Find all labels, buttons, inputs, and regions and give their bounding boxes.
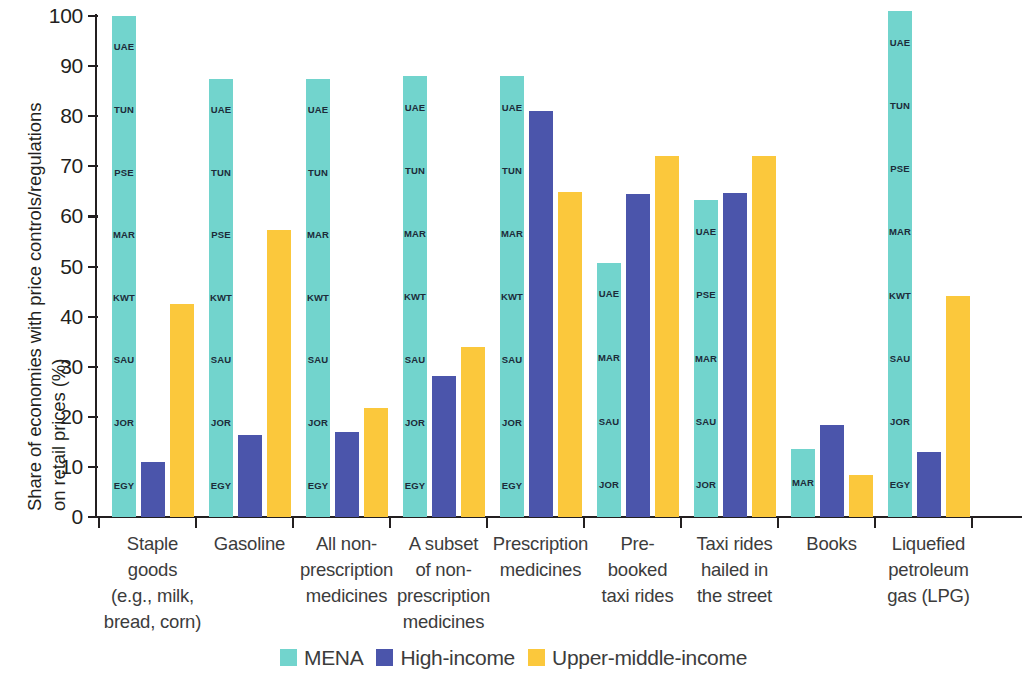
bar-high-income-1 <box>238 435 262 517</box>
bar-economy-label: UAE <box>211 104 232 115</box>
bar-economy-label: UAE <box>114 41 135 52</box>
y-axis-tick-label: 90 <box>60 53 83 79</box>
y-axis-tick-label: 0 <box>72 504 83 530</box>
x-axis-category-line: booked <box>592 557 684 583</box>
bar-economy-label: UAE <box>308 104 329 115</box>
bar-upper-middle-income-4 <box>558 192 582 517</box>
bar-mena-1: UAETUNPSEKWTSAUJOREGY <box>209 79 233 517</box>
legend-label: High-income <box>400 646 515 669</box>
bar-economy-label: SAU <box>599 416 620 427</box>
legend-item-high-income[interactable]: High-income <box>376 646 515 669</box>
x-axis-category-line: All non- <box>294 531 399 557</box>
y-axis-tick-label: 50 <box>60 254 83 280</box>
x-axis-tick <box>583 517 585 528</box>
bar-economy-label: SAU <box>405 354 426 365</box>
bar-upper-middle-income-1 <box>267 230 291 517</box>
y-axis-title: Share of economies with price controls/r… <box>0 0 56 520</box>
bar-high-income-2 <box>335 432 359 517</box>
bar-economy-label: JOR <box>696 479 716 490</box>
bar-economy-label: MAR <box>889 226 911 237</box>
bar-mena-0: UAETUNPSEMARKWTSAUJOREGY <box>112 16 136 517</box>
x-axis-category-line: gas (LPG) <box>875 583 983 609</box>
chart-legend: MENAHigh-incomeUpper-middle-income <box>0 646 1027 669</box>
x-axis-tick <box>389 517 391 528</box>
bar-economy-label: UAE <box>599 288 620 299</box>
y-axis-tick-label: 20 <box>60 404 83 430</box>
bar-high-income-8 <box>917 452 941 517</box>
x-axis-category-line: Staple <box>89 531 217 557</box>
bar-economy-label: MAR <box>792 477 814 488</box>
legend-swatch-icon <box>528 649 545 666</box>
chart-figure: Share of economies with price controls/r… <box>0 0 1027 673</box>
bar-upper-middle-income-3 <box>461 347 485 517</box>
x-axis-category-line: the street <box>682 583 787 609</box>
bar-economy-label: JOR <box>890 416 910 427</box>
bar-economy-label: SAU <box>696 416 717 427</box>
bar-economy-label: TUN <box>308 167 328 178</box>
x-axis-category-line: A subset <box>391 531 496 557</box>
bar-upper-middle-income-8 <box>946 296 970 517</box>
legend-swatch-icon <box>376 649 393 666</box>
bar-economy-label: EGY <box>114 480 135 491</box>
y-axis-tick-label: 10 <box>60 454 83 480</box>
bar-economy-label: MAR <box>501 228 523 239</box>
bar-economy-label: JOR <box>599 479 619 490</box>
legend-label: Upper-middle-income <box>552 646 747 669</box>
bar-economy-label: EGY <box>308 480 329 491</box>
bar-economy-label: EGY <box>211 480 232 491</box>
x-axis-category-label: Pre-bookedtaxi rides <box>592 531 684 609</box>
bar-economy-label: TUN <box>114 104 134 115</box>
bar-economy-label: SAU <box>890 353 911 364</box>
x-axis-category-label: Liquefiedpetroleumgas (LPG) <box>875 531 983 609</box>
bar-mena-6: UAEPSEMARSAUJOR <box>694 200 718 517</box>
x-axis-category-line: of non- <box>391 557 496 583</box>
x-axis-tick <box>874 517 876 528</box>
bar-high-income-4 <box>529 111 553 517</box>
legend-item-upper-middle-income[interactable]: Upper-middle-income <box>528 646 747 669</box>
bar-mena-2: UAETUNMARKWTSAUJOREGY <box>306 79 330 517</box>
x-axis-category-line: prescription <box>294 557 399 583</box>
bar-economy-label: KWT <box>889 290 911 301</box>
bar-upper-middle-income-7 <box>849 475 873 517</box>
bar-economy-label: SAU <box>502 354 523 365</box>
x-axis-category-label: Gasoline <box>200 531 300 557</box>
bar-economy-label: PSE <box>890 163 910 174</box>
y-axis-title-line-1: Share of economies with price controls/r… <box>24 103 46 511</box>
plot-area: UAETUNPSEMARKWTSAUJOREGYUAETUNPSEKWTSAUJ… <box>97 16 1012 517</box>
bar-economy-label: TUN <box>890 100 910 111</box>
x-axis-category-label: Staplegoods(e.g., milk,bread, corn) <box>89 531 217 635</box>
legend-item-mena[interactable]: MENA <box>280 646 363 669</box>
bar-economy-label: EGY <box>890 479 911 490</box>
x-axis-category-line: Books <box>793 531 871 557</box>
legend-label: MENA <box>304 646 363 669</box>
x-axis-category-line: bread, corn) <box>89 609 217 635</box>
bar-economy-label: SAU <box>114 354 135 365</box>
bar-economy-label: UAE <box>890 37 911 48</box>
bar-economy-label: KWT <box>307 292 329 303</box>
y-axis-tick-label: 30 <box>60 354 83 380</box>
bar-economy-label: JOR <box>502 417 522 428</box>
x-axis-category-line: Prescription <box>486 531 596 557</box>
bar-economy-label: UAE <box>502 102 523 113</box>
bar-high-income-7 <box>820 425 844 517</box>
bar-mena-4: UAETUNMARKWTSAUJOREGY <box>500 76 524 517</box>
bar-mena-5: UAEMARSAUJOR <box>597 263 621 518</box>
bar-economy-label: MAR <box>598 352 620 363</box>
bar-economy-label: MAR <box>404 228 426 239</box>
x-axis-category-label: All non-prescriptionmedicines <box>294 531 399 609</box>
x-axis-category-label: Books <box>793 531 871 557</box>
x-axis-tick <box>971 517 973 528</box>
x-axis-tick <box>486 517 488 528</box>
bar-economy-label: JOR <box>308 417 328 428</box>
bar-high-income-6 <box>723 193 747 517</box>
bar-economy-label: TUN <box>502 165 522 176</box>
bar-economy-label: KWT <box>501 291 523 302</box>
bar-economy-label: EGY <box>502 480 523 491</box>
x-axis-tick <box>680 517 682 528</box>
x-axis-category-line: Taxi rides <box>682 531 787 557</box>
x-axis-category-label: Prescriptionmedicines <box>486 531 596 583</box>
bar-economy-label: MAR <box>307 229 329 240</box>
y-axis-tick-label: 100 <box>49 3 83 29</box>
bar-economy-label: JOR <box>211 417 231 428</box>
bar-economy-label: KWT <box>113 292 135 303</box>
